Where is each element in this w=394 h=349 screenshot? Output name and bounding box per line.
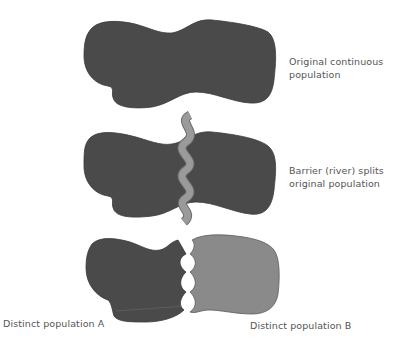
original-population-shape xyxy=(84,20,276,108)
label-line: Barrier (river) splits xyxy=(289,164,384,177)
label-line: original population xyxy=(289,177,384,190)
label-line: Distinct population A xyxy=(3,317,104,330)
population-b-shape xyxy=(190,235,279,314)
river-barrier-icon xyxy=(182,115,191,222)
label-population-b: Distinct population B xyxy=(250,319,351,332)
label-barrier-splits: Barrier (river) splits original populati… xyxy=(289,164,384,190)
label-line: Distinct population B xyxy=(250,319,351,332)
label-line: population xyxy=(289,68,383,81)
label-population-a: Distinct population A xyxy=(3,317,104,330)
label-original-population: Original continuous population xyxy=(289,55,383,81)
label-line: Original continuous xyxy=(289,55,383,68)
